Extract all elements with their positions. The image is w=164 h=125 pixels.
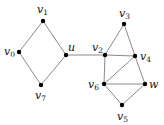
- edge-v1-v0: [19, 21, 43, 52]
- node-v6: [102, 82, 106, 86]
- node-label-v5: v5: [117, 110, 128, 124]
- edge-v5-w: [122, 84, 145, 105]
- node-label-u: u: [68, 41, 75, 54]
- node-w: [143, 82, 147, 86]
- edge-v6-v5: [104, 84, 122, 105]
- node-label-v7: v7: [35, 89, 46, 103]
- node-v4: [133, 54, 137, 58]
- graph-diagram: v0v1uv7v2v3v4v6wv5: [0, 0, 164, 125]
- node-label-w: w: [149, 78, 159, 91]
- edge-v3-v4: [124, 24, 135, 56]
- node-v2: [103, 53, 107, 57]
- node-v5: [120, 103, 124, 107]
- node-label-v4: v4: [140, 50, 151, 64]
- edge-v1-u: [43, 21, 66, 55]
- node-label-v3: v3: [119, 7, 130, 21]
- node-label-v2: v2: [92, 41, 103, 55]
- node-label-v1: v1: [37, 3, 48, 17]
- edge-v0-v7: [19, 52, 41, 85]
- node-label-v6: v6: [88, 78, 99, 92]
- node-v7: [39, 83, 43, 87]
- node-v3: [122, 22, 126, 26]
- edge-v4-v6: [104, 56, 135, 84]
- node-label-v0: v0: [4, 45, 15, 59]
- edge-v2-v6: [104, 55, 105, 84]
- node-v0: [17, 50, 21, 54]
- edge-v2-v4: [105, 55, 135, 56]
- edge-v2-v3: [105, 24, 124, 55]
- node-v1: [41, 19, 45, 23]
- edge-v7-u: [41, 55, 66, 85]
